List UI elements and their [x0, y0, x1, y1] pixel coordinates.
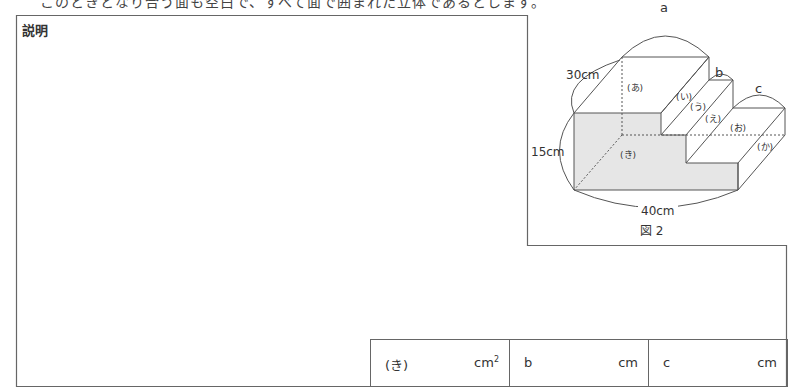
answer-label: c [663, 355, 670, 370]
answer-cell-ki-area[interactable]: (き) cm2 [371, 340, 510, 387]
label-c: c [755, 81, 762, 96]
answer-unit: cm [618, 355, 638, 370]
answer-cell-c-length[interactable]: c cm [649, 340, 788, 387]
svg-text:(か): (か) [757, 142, 773, 152]
answer-cell-b-length[interactable]: b cm [510, 340, 649, 387]
figure-2-stair-solid: a b c 30cm 15cm 40cm (あ) (い) (う) (え) (お)… [530, 0, 792, 245]
svg-text:(あ): (あ) [627, 83, 643, 93]
svg-text:15cm: 15cm [531, 145, 565, 159]
svg-text:(う): (う) [690, 102, 706, 112]
explanation-label: 説明 [22, 20, 48, 39]
svg-text:(お): (お) [730, 123, 746, 133]
svg-text:40cm: 40cm [641, 204, 675, 218]
label-b: b [715, 65, 723, 80]
svg-text:(え): (え) [705, 114, 721, 124]
answer-label: (き) [385, 355, 408, 374]
answer-row: (き) cm2 b cm c cm [370, 339, 788, 387]
svg-text:図 2: 図 2 [640, 224, 663, 238]
svg-text:30cm: 30cm [566, 68, 600, 82]
label-a: a [660, 0, 668, 15]
answer-unit: cm [757, 355, 777, 370]
answer-unit: cm2 [474, 355, 499, 370]
svg-text:(い): (い) [676, 92, 692, 102]
svg-text:(き): (き) [620, 150, 636, 160]
answer-label: b [524, 355, 532, 370]
